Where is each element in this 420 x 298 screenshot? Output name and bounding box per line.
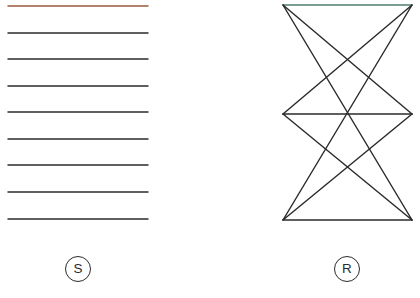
panel-caption-s-label: S xyxy=(73,262,82,276)
panel-caption-s: S xyxy=(65,256,91,282)
panel-s-line-group xyxy=(8,6,148,219)
panel-r-edge-group xyxy=(283,5,412,220)
figure-canvas xyxy=(0,0,420,298)
panel-caption-r: R xyxy=(334,256,360,282)
figure-root: S R xyxy=(0,0,420,298)
panel-caption-r-label: R xyxy=(342,262,352,276)
